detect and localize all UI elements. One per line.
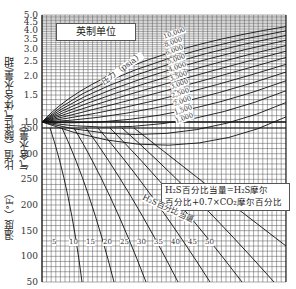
note-line-2: 百分比+0.7×CO₂摩尔百分比	[165, 196, 289, 208]
y-tick-ratio: 3.5	[12, 34, 38, 44]
y-tick-ratio: 1.5	[12, 90, 38, 100]
y-tick-temperature: 250	[12, 174, 38, 184]
h2s-curve-label: 45	[188, 239, 197, 246]
h2s-curve-label: 5	[52, 239, 56, 246]
nomogram-chart	[0, 0, 296, 289]
y-tick-temperature: 200	[12, 200, 38, 210]
y-tick-ratio: 2.0	[12, 71, 38, 81]
chart-title: 英制单位	[56, 23, 136, 41]
h2s-curve-label: 10	[69, 239, 78, 246]
y-tick-temperature: 100	[12, 251, 38, 261]
y-tick-temperature: 150	[12, 226, 38, 236]
h2s-curve-label: 30	[137, 239, 146, 246]
h2s-curve-label: 35	[154, 239, 163, 246]
h2s-curve-label: 20	[103, 239, 112, 246]
h2s-curve-label: 15	[86, 239, 95, 246]
y-tick-temperature: 50	[12, 277, 38, 287]
h2s-equivalent-note: H₂S百分比当量=H₂S摩尔 百分比+0.7×CO₂摩尔百分比	[161, 183, 290, 211]
h2s-curve-label: 50	[205, 239, 214, 246]
y-tick-ratio: 3.0	[12, 44, 38, 54]
h2s-curve-label: 25	[120, 239, 129, 246]
h2s-curve-label: 40	[171, 239, 180, 246]
y-tick-temperature: 350	[12, 123, 38, 133]
y-tick-ratio: 2.5	[12, 56, 38, 66]
y-tick-temperature: 300	[12, 149, 38, 159]
note-line-1: H₂S百分比当量=H₂S摩尔	[165, 184, 289, 196]
